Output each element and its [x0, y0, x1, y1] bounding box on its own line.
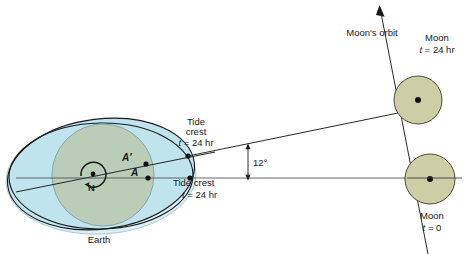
- moon-upper-time: t = 24 hr: [419, 44, 454, 55]
- moon-center-dot-t0: [427, 176, 433, 182]
- tide-crest-upper-label-group: Tide crest t = 24 hr: [178, 116, 213, 148]
- moon-lower-name: Moon: [420, 210, 444, 221]
- point-a-label: A: [130, 167, 138, 178]
- north-pole-dot: [91, 172, 96, 177]
- point-a-prime-label: A′: [121, 152, 132, 163]
- moon-lower-time: t = 0: [423, 222, 442, 233]
- moon-center-dot-24hr: [415, 97, 421, 103]
- tide-crest-lower-time-value: = 24 hr: [185, 189, 217, 200]
- moon-lower-time-value: = 0: [425, 222, 441, 233]
- tide-crest-lower-line1: Tide crest: [173, 177, 215, 188]
- moon-lower-group: Moon t = 0: [405, 154, 462, 233]
- tidal-diagram: A′ A N Earth Tide crest t = 24 hr Tide c…: [0, 0, 470, 254]
- point-a-prime-dot: [143, 161, 148, 166]
- angle-label: 12°: [253, 157, 268, 168]
- point-a-dot: [145, 175, 150, 180]
- orbit-arrow-icon: [376, 5, 385, 17]
- earth-label: Earth: [88, 234, 111, 245]
- north-pole-label: N: [88, 182, 95, 193]
- moon-orbit-group: Moon's orbit: [346, 5, 428, 254]
- diagram-canvas: A′ A N Earth Tide crest t = 24 hr Tide c…: [0, 0, 470, 254]
- angle-marker-group: 12°: [245, 144, 267, 181]
- tide-crest-upper-line2: crest: [186, 126, 207, 137]
- moon-upper-group: Moon t = 24 hr: [188, 32, 455, 156]
- moon-upper-name: Moon: [425, 32, 449, 43]
- tide-crest-upper-time: t = 24 hr: [178, 137, 213, 148]
- tide-crest-upper-time-value: = 24 hr: [181, 137, 213, 148]
- moon-upper-time-value: = 24 hr: [422, 44, 454, 55]
- moon-orbit-label: Moon's orbit: [346, 27, 398, 38]
- tide-crest-lower-time: t = 24 hr: [182, 189, 217, 200]
